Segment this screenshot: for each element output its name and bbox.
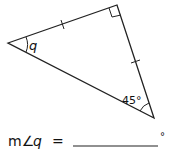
angle-label-45: 45°	[122, 94, 142, 107]
angle-arc-q	[26, 37, 28, 52]
question-variable: q	[33, 133, 42, 149]
degree-symbol: °	[160, 131, 165, 142]
question-equals: =	[52, 133, 64, 149]
angle-label-q: q	[29, 38, 37, 53]
triangle-diagram: q 45° m∠ q = °	[0, 0, 169, 151]
question-prefix: m∠	[8, 133, 34, 149]
